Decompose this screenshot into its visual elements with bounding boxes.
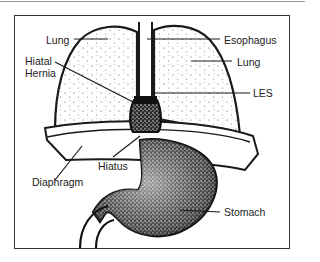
label-les: LES [253,87,273,99]
hiatal-hernia [130,96,161,132]
label-hiatus: Hiatus [98,160,128,172]
label-hiatal-hernia-line2: Hernia [25,67,56,79]
label-lung-right: Lung [237,56,260,68]
label-esophagus: Esophagus [224,34,277,46]
label-lung-left: Lung [46,34,69,46]
label-stomach: Stomach [224,206,265,218]
label-hiatal-hernia-line1: Hiatal [25,55,52,67]
label-diaphragm: Diaphragm [32,176,83,188]
